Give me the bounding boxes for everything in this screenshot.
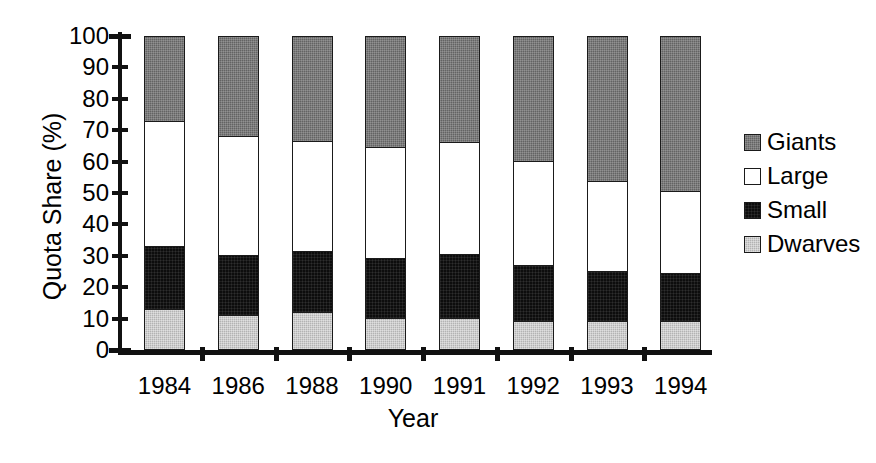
legend-label: Giants <box>767 130 836 154</box>
y-tick-label: 80 <box>82 87 109 111</box>
x-axis-line <box>118 350 712 355</box>
bar-segment-giants[interactable] <box>440 36 479 143</box>
bar-1988[interactable] <box>292 36 333 350</box>
legend-item-giants[interactable]: Giants <box>744 125 874 159</box>
bar-segment-small[interactable] <box>366 259 405 319</box>
bar-segment-large[interactable] <box>293 142 332 252</box>
y-tick-label: 0 <box>96 338 109 362</box>
bar-segment-large[interactable] <box>219 137 258 256</box>
legend-swatch-icon <box>744 236 761 253</box>
y-axis-title: Quota Share (%) <box>38 72 67 342</box>
bar-1992[interactable] <box>513 36 554 350</box>
x-tick <box>642 347 647 361</box>
y-tick-label: 20 <box>82 275 109 299</box>
bar-segment-dwarves[interactable] <box>588 322 627 349</box>
x-tick <box>421 347 426 361</box>
y-tick-label: 90 <box>82 55 109 79</box>
bar-segment-dwarves[interactable] <box>366 319 405 349</box>
x-axis-title: Year <box>118 404 708 433</box>
legend-item-small[interactable]: Small <box>744 193 874 227</box>
bar-segment-dwarves[interactable] <box>293 313 332 349</box>
bar-1990[interactable] <box>365 36 406 350</box>
y-tick-label: 50 <box>82 181 109 205</box>
y-tick <box>112 254 128 258</box>
x-tick <box>200 347 205 361</box>
bar-1986[interactable] <box>218 36 259 350</box>
bar-segment-giants[interactable] <box>514 36 553 162</box>
bar-segment-small[interactable] <box>293 252 332 313</box>
legend-label: Small <box>767 198 827 222</box>
bar-segment-giants[interactable] <box>293 36 332 142</box>
legend-swatch-icon <box>744 134 761 151</box>
y-tick <box>112 222 128 226</box>
bar-segment-large[interactable] <box>514 162 553 266</box>
bar-segment-giants[interactable] <box>219 36 258 137</box>
y-tick <box>112 160 128 164</box>
y-tick <box>109 34 131 39</box>
bar-segment-large[interactable] <box>588 182 627 272</box>
y-tick <box>112 128 128 132</box>
x-tick-label: 1994 <box>636 374 726 398</box>
y-tick <box>112 285 128 289</box>
y-tick-label: 60 <box>82 150 109 174</box>
bar-1993[interactable] <box>587 36 628 350</box>
bar-segment-dwarves[interactable] <box>440 319 479 349</box>
y-tick <box>112 65 128 69</box>
legend-item-large[interactable]: Large <box>744 159 874 193</box>
y-tick-label: 10 <box>82 307 109 331</box>
legend-swatch-icon <box>744 168 761 185</box>
x-tick <box>347 347 352 361</box>
bar-segment-small[interactable] <box>145 247 184 310</box>
bar-segment-giants[interactable] <box>588 36 627 182</box>
y-tick-label: 70 <box>82 118 109 142</box>
bar-1984[interactable] <box>144 36 185 350</box>
bar-segment-giants[interactable] <box>661 36 700 192</box>
y-tick <box>112 317 128 321</box>
legend-label: Large <box>767 164 828 188</box>
bar-segment-small[interactable] <box>588 272 627 322</box>
y-tick <box>112 191 128 195</box>
bar-1991[interactable] <box>439 36 480 350</box>
bar-segment-small[interactable] <box>661 274 700 323</box>
bar-segment-large[interactable] <box>366 148 405 259</box>
bar-1994[interactable] <box>660 36 701 350</box>
bar-segment-dwarves[interactable] <box>514 322 553 349</box>
bar-segment-giants[interactable] <box>366 36 405 148</box>
bar-segment-large[interactable] <box>145 122 184 247</box>
bar-segment-small[interactable] <box>219 256 258 316</box>
bar-segment-dwarves[interactable] <box>661 322 700 349</box>
bar-segment-dwarves[interactable] <box>145 310 184 349</box>
x-tick <box>274 347 279 361</box>
bar-segment-dwarves[interactable] <box>219 316 258 349</box>
y-tick <box>112 97 128 101</box>
x-tick <box>495 347 500 361</box>
bar-segment-giants[interactable] <box>145 36 184 122</box>
y-tick-label: 30 <box>82 244 109 268</box>
y-tick-label: 100 <box>69 24 109 48</box>
y-tick-label: 40 <box>82 212 109 236</box>
plot-area: 0102030405060708090100 19841986198819901… <box>118 36 708 350</box>
legend-item-dwarves[interactable]: Dwarves <box>744 227 874 261</box>
bar-segment-small[interactable] <box>514 266 553 322</box>
legend: GiantsLargeSmallDwarves <box>744 125 874 261</box>
legend-swatch-icon <box>744 202 761 219</box>
x-tick <box>569 347 574 361</box>
bar-segment-large[interactable] <box>661 192 700 274</box>
bar-segment-large[interactable] <box>440 143 479 255</box>
legend-label: Dwarves <box>767 232 860 256</box>
bar-segment-small[interactable] <box>440 255 479 319</box>
stacked-bar-chart: Quota Share (%) 0102030405060708090100 1… <box>0 0 876 463</box>
